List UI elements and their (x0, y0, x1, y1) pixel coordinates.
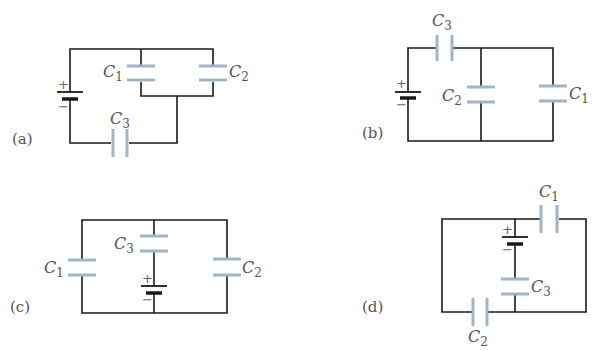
panel-label-b: (b) (362, 126, 383, 141)
plus-sign-b: + (396, 77, 407, 90)
label-c2-a: C2 (229, 64, 249, 83)
minus-sign-c: − (142, 293, 153, 306)
minus-sign-d: − (502, 243, 513, 256)
panel-label-d: (d) (362, 300, 383, 315)
label-c1-d: C1 (539, 184, 559, 203)
label-c3-c: C3 (114, 236, 134, 255)
label-c2-b: C2 (442, 88, 462, 107)
panel-label-c: (c) (10, 300, 30, 315)
label-c2-d: C2 (468, 329, 488, 348)
plus-sign-a: + (58, 78, 69, 91)
label-c1-b: C1 (569, 86, 589, 105)
circuit-d (442, 205, 586, 326)
label-c1-c: C1 (44, 260, 64, 279)
plus-sign-d: + (502, 223, 513, 236)
circuit-a (57, 49, 227, 157)
plus-sign-c: + (142, 272, 153, 285)
label-c3-b: C3 (432, 13, 452, 32)
circuit-b (395, 35, 567, 141)
label-c2-c: C2 (242, 260, 262, 279)
label-c1-a: C1 (103, 64, 123, 83)
circuit-diagrams (0, 0, 597, 351)
circuit-c (68, 220, 241, 313)
panel-label-a: (a) (12, 132, 33, 147)
minus-sign-a: − (58, 100, 69, 113)
label-c3-a: C3 (110, 111, 130, 130)
minus-sign-b: − (396, 98, 407, 111)
label-c3-d: C3 (531, 279, 551, 298)
